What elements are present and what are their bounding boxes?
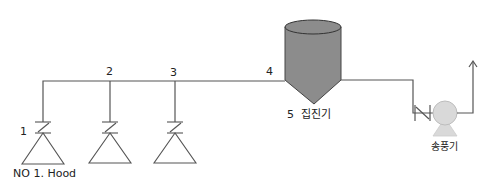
collector-label: 5 집진기 bbox=[287, 109, 331, 120]
hood-icon bbox=[154, 133, 196, 163]
point-label-4: 4 bbox=[266, 66, 273, 77]
point-label-1: 1 bbox=[20, 126, 27, 137]
hood-label: NO 1. Hood bbox=[13, 168, 76, 179]
fan-icon bbox=[433, 101, 457, 136]
hood-1 bbox=[22, 122, 64, 164]
exhaust-system-diagram bbox=[0, 0, 494, 184]
hood-icon bbox=[89, 133, 131, 163]
hood-3 bbox=[154, 122, 196, 163]
point-label-3: 3 bbox=[170, 67, 177, 78]
damper-valve-icon bbox=[102, 122, 118, 133]
hood-icon bbox=[22, 133, 64, 164]
dust-collector-icon bbox=[285, 20, 341, 104]
main-duct bbox=[43, 81, 285, 122]
damper-valve-icon bbox=[35, 122, 51, 133]
outlet-duct bbox=[457, 61, 477, 113]
damper-valve-icon bbox=[167, 122, 183, 133]
fan-label: 송풍기 bbox=[431, 142, 458, 152]
hood-2 bbox=[89, 122, 131, 163]
point-label-2: 2 bbox=[106, 66, 113, 77]
fan-duct bbox=[341, 80, 433, 121]
